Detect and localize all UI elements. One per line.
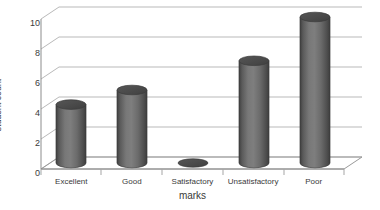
bar-cap-excellent xyxy=(56,100,86,110)
x-axis-title: marks xyxy=(41,190,344,201)
x-tick-label-satisfactory: Satisfactory xyxy=(162,176,223,190)
bar-cap-good xyxy=(117,85,147,95)
bar-excellent[interactable] xyxy=(56,100,86,168)
x-axis-tick-labels: Excellent Good Satisfactory Unsatisfacto… xyxy=(41,176,344,190)
bar-good[interactable] xyxy=(117,85,147,168)
bar-unsatisfactory[interactable] xyxy=(239,56,269,168)
x-tick-label-excellent: Excellent xyxy=(41,176,102,190)
bar-chart: student count 10 8 6 4 2 0 xyxy=(0,0,380,210)
x-tick-label-poor: Poor xyxy=(283,176,344,190)
bar-cap-satisfactory xyxy=(178,159,208,167)
bar-poor[interactable] xyxy=(300,12,330,168)
bar-satisfactory[interactable] xyxy=(178,159,208,167)
x-axis-ticks xyxy=(41,169,344,175)
bar-cap-unsatisfactory xyxy=(239,56,269,66)
x-tick-label-unsatisfactory: Unsatisfactory xyxy=(223,176,284,190)
bar-cap-poor xyxy=(300,12,330,22)
x-tick-label-good: Good xyxy=(102,176,163,190)
